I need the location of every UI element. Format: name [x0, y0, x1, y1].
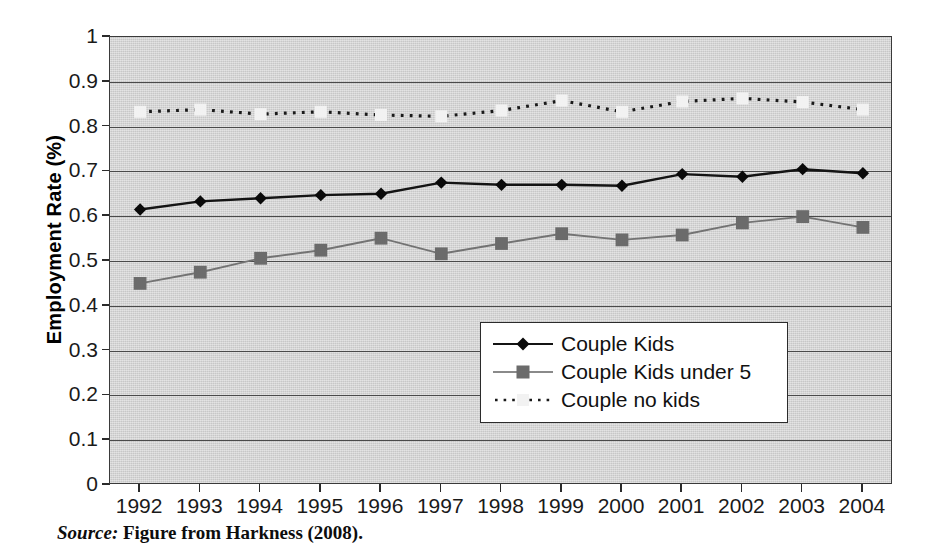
- y-axis-tick-label: 0.9: [32, 70, 98, 91]
- x-axis-tick: [500, 484, 502, 492]
- data-point: [676, 229, 689, 242]
- data-point: [134, 277, 147, 290]
- figure-employment-rate: Employment Rate (%) 10.90.80.70.60.50.40…: [0, 0, 932, 553]
- series-couple-kids: [134, 163, 869, 216]
- data-point: [435, 176, 447, 188]
- legend-key-diamond-icon: [491, 333, 555, 355]
- data-point: [435, 247, 448, 260]
- data-point: [315, 189, 327, 201]
- legend-label-couple-kids-under-5: Couple Kids under 5: [555, 361, 751, 383]
- data-point: [194, 104, 206, 116]
- x-axis-tick: [259, 484, 261, 492]
- data-point: [194, 195, 206, 207]
- data-point: [375, 109, 387, 121]
- data-point: [676, 96, 688, 108]
- data-point: [797, 96, 809, 108]
- data-point: [736, 92, 748, 104]
- legend-item-couple-no-kids: Couple no kids: [491, 386, 777, 414]
- y-axis-tick-label: 0.3: [32, 339, 98, 360]
- x-axis-tick: [440, 484, 442, 492]
- y-axis-tick-label: 0.8: [32, 115, 98, 136]
- data-point: [496, 105, 508, 117]
- legend-key-dotted-icon: [491, 389, 555, 411]
- legend-key-square-icon: [491, 361, 555, 383]
- data-point: [315, 106, 327, 118]
- data-point: [796, 163, 808, 175]
- y-axis-tick-label: 1: [32, 25, 98, 46]
- data-point: [616, 180, 628, 192]
- y-axis-tick-label: 0.2: [32, 383, 98, 404]
- x-axis-tick: [319, 484, 321, 492]
- y-axis-tick-label: 0: [32, 473, 98, 494]
- data-point: [556, 179, 568, 191]
- data-point: [194, 266, 207, 279]
- x-axis-tick: [379, 484, 381, 492]
- figure-caption: Source: Figure from Harkness (2008).: [57, 522, 363, 544]
- y-axis-tick-label: 0.1: [32, 428, 98, 449]
- x-axis-tick-label: 2004: [822, 494, 902, 518]
- series-line: [140, 217, 863, 284]
- legend-label-couple-kids: Couple Kids: [555, 333, 674, 355]
- x-axis-tick: [560, 484, 562, 492]
- y-axis-tick-label: 0.4: [32, 294, 98, 315]
- data-point: [134, 106, 146, 118]
- data-point: [857, 104, 869, 116]
- y-axis-tick-label: 0.5: [32, 249, 98, 270]
- series-couple-kids-under-5: [134, 210, 870, 290]
- y-axis-title: Employment Rate (%): [43, 100, 66, 380]
- x-axis-tick: [861, 484, 863, 492]
- data-point: [435, 110, 447, 122]
- data-point: [616, 234, 629, 247]
- data-point: [555, 227, 568, 240]
- x-axis-tick: [138, 484, 140, 492]
- data-point: [796, 210, 809, 223]
- y-axis-tick-label: 0.6: [32, 204, 98, 225]
- data-point: [375, 188, 387, 200]
- chart-legend: Couple Kids Couple Kids under 5 Couple n…: [480, 322, 788, 423]
- x-axis-tick: [620, 484, 622, 492]
- series-couple-no-kids: [134, 92, 869, 122]
- y-axis-tick-label: 0.7: [32, 159, 98, 180]
- x-axis-tick: [199, 484, 201, 492]
- data-point: [375, 232, 388, 245]
- caption-text: Figure from Harkness (2008).: [123, 522, 363, 543]
- data-point: [736, 171, 748, 183]
- data-point: [676, 168, 688, 180]
- data-point: [255, 108, 267, 120]
- data-point: [495, 237, 508, 250]
- data-point: [134, 203, 146, 215]
- caption-source-label: Source:: [57, 522, 118, 543]
- data-point: [254, 252, 267, 265]
- data-point: [857, 221, 870, 234]
- x-axis-tick: [680, 484, 682, 492]
- legend-item-couple-kids: Couple Kids: [491, 330, 777, 358]
- data-point: [254, 192, 266, 204]
- legend-item-couple-kids-under-5: Couple Kids under 5: [491, 358, 777, 386]
- x-axis-tick: [801, 484, 803, 492]
- data-point: [857, 167, 869, 179]
- data-point: [556, 95, 568, 107]
- data-point: [314, 244, 327, 257]
- legend-label-couple-no-kids: Couple no kids: [555, 389, 700, 411]
- data-point: [736, 217, 749, 230]
- data-point: [616, 106, 628, 118]
- data-point: [495, 179, 507, 191]
- x-axis-tick: [741, 484, 743, 492]
